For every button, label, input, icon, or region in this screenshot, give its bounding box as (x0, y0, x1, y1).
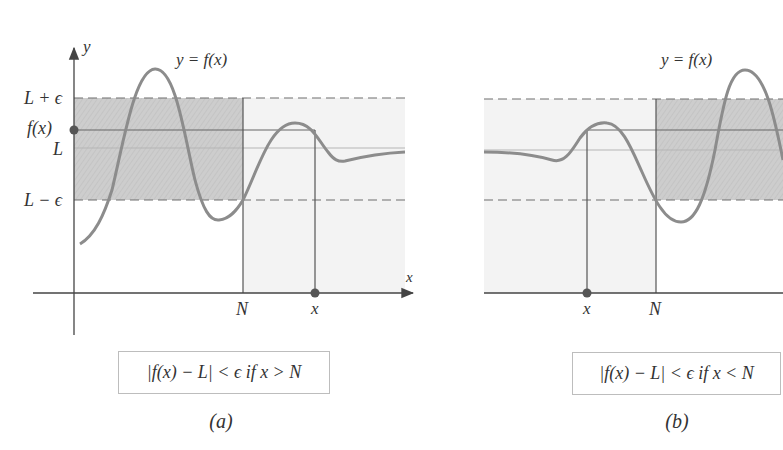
light-region-b (484, 99, 656, 293)
curve-label-a: y = f(x) (176, 51, 227, 68)
epsilon-band-a (74, 98, 243, 200)
panel-a (33, 48, 413, 335)
tick-x-a: x (311, 300, 319, 317)
light-region-a (243, 98, 405, 293)
condition-box-b: |f(x) − L| < ϵ if x < N (572, 352, 781, 395)
condition-box-a: |f(x) − L| < ϵ if x > N (118, 351, 330, 394)
panel-b (484, 70, 783, 298)
x-axis-label-a: x (406, 270, 413, 285)
tick-fx: f(x) (27, 119, 52, 137)
tick-l-plus-eps: L + ϵ (24, 89, 62, 107)
caption-b: (b) (647, 410, 707, 433)
y-axis-label-a: y (83, 38, 91, 55)
tick-n-b: N (649, 300, 661, 318)
x-point-a (311, 289, 320, 298)
condition-text-a: |f(x) − L| < ϵ if x > N (147, 362, 302, 383)
tick-l-minus-eps: L − ϵ (24, 191, 62, 209)
curve-label-b: y = f(x) (661, 51, 712, 68)
tick-x-b: x (583, 300, 591, 317)
condition-text-b: |f(x) − L| < ϵ if x < N (599, 363, 754, 384)
tick-n-a: N (236, 300, 248, 318)
x-point-b (583, 289, 592, 298)
tick-l: L (53, 140, 63, 158)
fx-point-a (70, 126, 79, 135)
caption-a: (a) (191, 410, 251, 433)
